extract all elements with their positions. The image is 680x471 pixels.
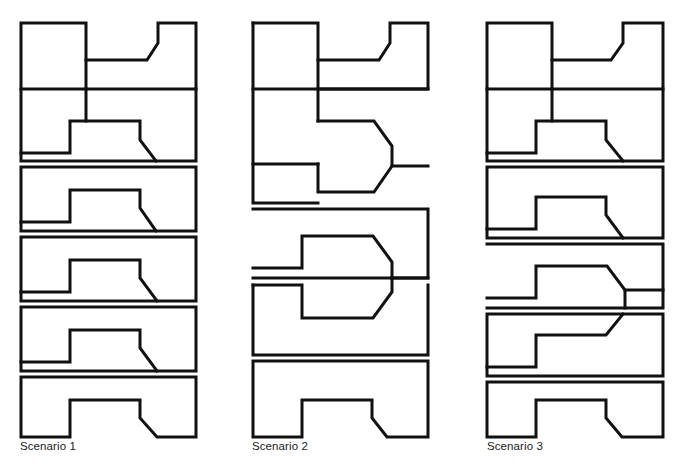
scenario-2-panel	[232, 0, 464, 471]
scenario-3-strokes	[487, 23, 663, 437]
scenario-3-panel	[464, 0, 680, 471]
scenario-2-diagram	[232, 0, 464, 471]
scenario-3-caption: Scenario 3	[487, 440, 543, 452]
scenario-1-strokes	[21, 23, 196, 437]
figure-root: Scenario 1 Scenario 2 Scenario 3	[0, 0, 680, 471]
scenario-2-caption: Scenario 2	[252, 440, 308, 452]
scenario-2-strokes	[253, 23, 428, 437]
scenario-3-diagram	[464, 0, 680, 471]
scenario-1-diagram	[0, 0, 232, 471]
scenario-1-caption: Scenario 1	[20, 440, 76, 452]
scenario-1-panel	[0, 0, 232, 471]
